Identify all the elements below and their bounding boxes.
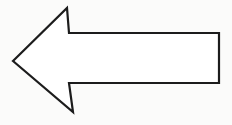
left-arrow-shape — [13, 8, 219, 112]
figure-canvas — [0, 0, 232, 125]
arrow-drawing — [0, 0, 232, 125]
